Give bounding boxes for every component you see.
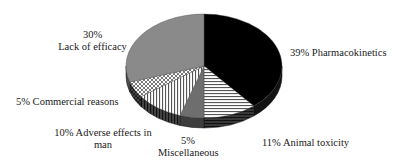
- label-efficacy-name: Lack of efficacy: [55, 41, 130, 53]
- label-adverse-line1: 10% Adverse effects in: [48, 127, 158, 139]
- label-adverse-line2: man: [48, 139, 158, 151]
- label-miscellaneous-pct: 5%: [158, 135, 218, 147]
- label-pharmacokinetics: 39% Pharmacokinetics: [290, 47, 387, 59]
- pie-top-face: [126, 14, 282, 118]
- label-efficacy-pct: 30%: [55, 29, 130, 41]
- label-animal-toxicity: 11% Animal toxicity: [262, 137, 349, 149]
- label-miscellaneous-name: Miscellaneous: [158, 147, 218, 159]
- label-commercial-reasons: 5% Commercial reasons: [16, 96, 119, 108]
- label-adverse-effects: 10% Adverse effects in man: [48, 127, 158, 151]
- label-miscellaneous: 5% Miscellaneous: [158, 135, 218, 159]
- label-lack-of-efficacy: 30% Lack of efficacy: [55, 29, 130, 53]
